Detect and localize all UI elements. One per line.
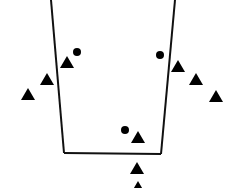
trapezoid-right-side xyxy=(161,0,175,154)
dot-markers xyxy=(73,48,164,134)
dot-upper-left xyxy=(73,48,81,56)
dot-upper-right xyxy=(156,51,164,59)
triangle-bottom-below-1 xyxy=(130,162,144,174)
triangle-right-3 xyxy=(209,90,223,102)
triangle-bottom-below-2 xyxy=(131,181,145,188)
trapezoid-left-side xyxy=(51,0,64,153)
triangle-left-2 xyxy=(40,73,54,85)
trapezoid-outline xyxy=(51,0,175,154)
triangle-right-2 xyxy=(189,73,203,85)
triangle-markers xyxy=(21,56,223,188)
triangle-right-1 xyxy=(171,60,185,72)
triangle-left-1 xyxy=(60,56,74,68)
triangle-left-3 xyxy=(21,88,35,100)
triangle-bottom-inside xyxy=(131,131,145,143)
diagram-canvas xyxy=(0,0,250,188)
dot-bottom xyxy=(121,126,129,134)
trapezoid-bottom-side xyxy=(64,153,161,154)
